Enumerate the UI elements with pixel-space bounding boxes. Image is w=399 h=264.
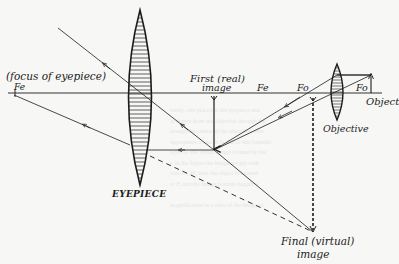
final-image-line [310,97,316,232]
object-label: Object [366,96,399,107]
final-image-label-line1: Final (virtual) [280,235,354,247]
fo-right-label: Fo [355,82,368,93]
objective-lens [320,64,355,120]
microscope-diagram: (focus of eyepiece) Fe First (real) imag… [0,0,399,264]
eyepiece-label: EYEPIECE [111,189,166,199]
final-image-label-line2: image [297,248,330,260]
focus-of-eyepiece-label: (focus of eyepiece) [6,70,106,82]
objective-rays [214,75,371,150]
fe-mid-label: Fe [256,82,269,93]
objective-label: Objective [323,123,369,134]
first-image-arrow [211,96,217,149]
virtual-ray-dashed [150,156,313,232]
fo-left-label: Fo [296,82,309,93]
eyepiece-rays [14,28,313,232]
first-image-label-line2: image [202,82,232,93]
fe-left-label: Fe [13,82,25,92]
eyepiece-lens [110,10,170,185]
